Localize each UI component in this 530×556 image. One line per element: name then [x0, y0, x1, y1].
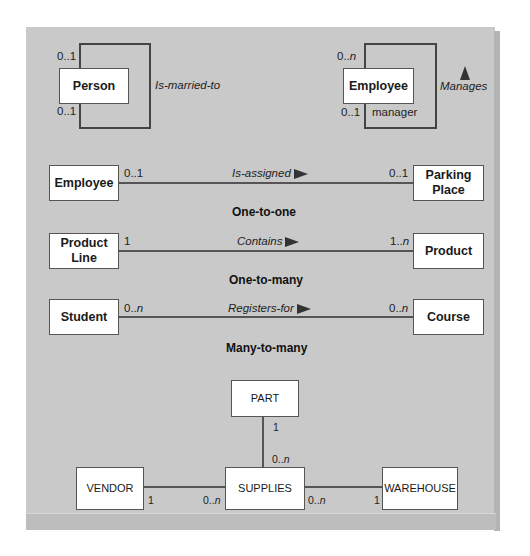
relationship-registers-for-label: Registers-for [228, 302, 294, 314]
line-vendor-supplies [143, 486, 226, 488]
entity-product-line-label: Product Line [59, 236, 109, 266]
relationship-is-assigned: Is-assigned [232, 167, 308, 179]
entity-student: Student [49, 299, 119, 335]
entity-course-label: Course [427, 310, 470, 325]
caption-many-to-many: Many-to-many [226, 341, 307, 355]
manages-direction-arrow-icon [460, 66, 470, 80]
entity-person: Person [59, 68, 129, 104]
mult-prefix: 0.. [272, 453, 284, 465]
relationship-contains: Contains [237, 235, 299, 247]
entity-warehouse-label: WAREHOUSE [384, 481, 456, 496]
direction-arrow-icon [297, 304, 311, 314]
relationship-contains-label: Contains [237, 235, 282, 247]
entity-part-label: PART [251, 391, 279, 406]
entity-product: Product [413, 233, 484, 269]
entity-parking-place: Parking Place [413, 165, 484, 201]
person-bottom-multiplicity: 0..1 [57, 105, 76, 117]
entity-warehouse: WAREHOUSE [382, 467, 458, 510]
entity-employee-unary: Employee [343, 68, 414, 104]
mult-prefix: 1.. [390, 235, 403, 247]
entity-parking-place-label: Parking Place [424, 168, 474, 198]
relationship-line-is-assigned [119, 182, 413, 184]
panel-shadow-edge [494, 31, 500, 531]
entity-vendor: VENDOR [76, 467, 144, 510]
mult-var: n [320, 494, 326, 506]
course-multiplicity: 0..n [389, 302, 408, 314]
supplies-left-multiplicity: 0..n [203, 494, 221, 506]
mult-var: n [402, 302, 408, 314]
mult-prefix: 0.. [337, 50, 350, 62]
person-top-multiplicity: 0..1 [57, 50, 76, 62]
entity-supplies: SUPPLIES [225, 467, 305, 510]
line-supplies-warehouse [304, 486, 383, 488]
relationship-line-registers-for [119, 316, 413, 318]
entity-supplies-label: SUPPLIES [238, 481, 292, 496]
entity-part: PART [231, 380, 299, 417]
mult-var: n [350, 50, 356, 62]
entity-vendor-label: VENDOR [86, 481, 133, 496]
employee-role-manager: manager [372, 106, 417, 118]
student-multiplicity: 0..n [124, 302, 143, 314]
caption-one-to-one: One-to-one [232, 205, 296, 219]
employee-assign-multiplicity: 0..1 [124, 167, 143, 179]
employee-top-multiplicity: 0..n [337, 50, 356, 62]
entity-product-line: Product Line [49, 233, 119, 269]
product-line-multiplicity: 1 [124, 235, 130, 247]
part-multiplicity: 1 [273, 421, 279, 433]
direction-arrow-icon [294, 169, 308, 179]
relationship-is-married-to: Is-married-to [155, 79, 220, 91]
direction-arrow-icon [285, 237, 299, 247]
relationship-manages: Manages [440, 80, 487, 92]
supplies-right-multiplicity: 0..n [308, 494, 326, 506]
entity-employee: Employee [49, 165, 119, 201]
supplies-top-multiplicity: 0..n [272, 453, 290, 465]
entity-employee-label: Employee [54, 176, 113, 191]
relationship-is-assigned-label: Is-assigned [232, 167, 291, 179]
entity-employee-unary-label: Employee [349, 79, 408, 94]
mult-var: n [137, 302, 143, 314]
mult-var: n [215, 494, 221, 506]
parking-place-multiplicity: 0..1 [389, 167, 408, 179]
warehouse-multiplicity: 1 [374, 494, 380, 506]
entity-person-label: Person [73, 79, 115, 94]
entity-student-label: Student [61, 310, 108, 325]
mult-prefix: 0.. [203, 494, 215, 506]
mult-prefix: 0.. [389, 302, 402, 314]
vendor-multiplicity: 1 [148, 494, 154, 506]
entity-course: Course [413, 299, 484, 335]
product-multiplicity: 1..n [390, 235, 409, 247]
mult-var: n [403, 235, 409, 247]
mult-prefix: 0.. [124, 302, 137, 314]
relationship-registers-for: Registers-for [228, 302, 311, 314]
relationship-line-contains [119, 250, 413, 252]
line-part-supplies [262, 417, 264, 467]
caption-one-to-many: One-to-many [229, 273, 303, 287]
mult-var: n [284, 453, 290, 465]
employee-bottom-multiplicity: 0..1 [341, 106, 360, 118]
panel-bottom-strip [26, 513, 496, 530]
mult-prefix: 0.. [308, 494, 320, 506]
entity-product-label: Product [425, 244, 472, 259]
